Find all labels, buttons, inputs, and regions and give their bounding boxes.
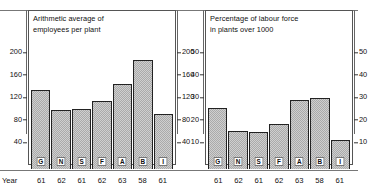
y-axis-tick-mark bbox=[200, 75, 204, 76]
bar-group[interactable]: N bbox=[228, 45, 247, 169]
y-axis-tick-mark bbox=[23, 120, 27, 121]
country-code-label: S bbox=[77, 157, 86, 166]
y-axis-tick-mark bbox=[200, 52, 204, 53]
y-axis-tick-mark bbox=[23, 75, 27, 76]
chart-panel-employees-per-plant: Arithmetic average of employees per plan… bbox=[28, 10, 176, 170]
country-code-label: S bbox=[254, 157, 263, 166]
country-code-label: F bbox=[97, 157, 106, 166]
chart-panel-labour-force-percentage: Percentage of labour force in plants ove… bbox=[205, 10, 353, 170]
y-axis-right: 1020304050 bbox=[355, 41, 372, 165]
bar-group[interactable]: B bbox=[133, 45, 152, 169]
year-tick-label: 61 bbox=[72, 174, 92, 188]
year-tick-label: 61 bbox=[153, 174, 173, 188]
y-axis-tick-mark bbox=[23, 97, 27, 98]
bar[interactable]: B bbox=[310, 98, 329, 169]
country-code-label: A bbox=[118, 157, 127, 166]
chart-title: Arithmetic average of employees per plan… bbox=[33, 14, 173, 35]
country-code-label: I bbox=[159, 157, 168, 166]
bar[interactable]: G bbox=[208, 108, 227, 169]
bar[interactable]: B bbox=[133, 60, 152, 169]
bar-group[interactable]: I bbox=[154, 45, 173, 169]
bar-group[interactable]: G bbox=[208, 45, 227, 169]
year-values: 61626162635861 bbox=[208, 174, 350, 188]
bar-group[interactable]: G bbox=[31, 45, 50, 169]
y-axis-tick-mark bbox=[354, 97, 358, 98]
y-axis-tick-mark bbox=[23, 52, 27, 53]
bar-series: GNSFABI bbox=[208, 45, 350, 169]
year-row-left: 61626162635861 bbox=[31, 174, 173, 188]
country-code-label: I bbox=[336, 157, 345, 166]
bar-group[interactable]: F bbox=[92, 45, 111, 169]
y-axis-tick-mark bbox=[200, 142, 204, 143]
country-code-label: G bbox=[36, 157, 45, 166]
y-axis-tick-mark bbox=[23, 142, 27, 143]
country-code-label: N bbox=[57, 157, 66, 166]
year-tick-label: 63 bbox=[289, 174, 309, 188]
year-tick-label: 61 bbox=[208, 174, 228, 188]
y-axis-tick-mark bbox=[200, 120, 204, 121]
bar[interactable]: A bbox=[113, 84, 132, 169]
y-axis-left: 4080120160200 bbox=[2, 41, 26, 165]
bar[interactable]: N bbox=[228, 131, 247, 169]
bar[interactable]: I bbox=[154, 114, 173, 169]
y-axis-spine-left bbox=[203, 10, 204, 134]
year-tick-label: 61 bbox=[330, 174, 350, 188]
bar[interactable]: A bbox=[290, 100, 309, 169]
country-code-label: A bbox=[295, 157, 304, 166]
year-tick-label: 61 bbox=[31, 174, 51, 188]
bar-group[interactable]: N bbox=[51, 45, 70, 169]
baseline-rule bbox=[0, 170, 358, 171]
chart-title: Percentage of labour force in plants ove… bbox=[210, 14, 350, 35]
bar-group[interactable]: B bbox=[310, 45, 329, 169]
year-tick-label: 62 bbox=[269, 174, 289, 188]
year-tick-label: 58 bbox=[132, 174, 152, 188]
bar[interactable]: F bbox=[269, 124, 288, 169]
bar[interactable]: N bbox=[51, 110, 70, 169]
bar[interactable]: I bbox=[331, 140, 350, 169]
y-axis-tick-mark bbox=[354, 75, 358, 76]
bar-group[interactable]: A bbox=[113, 45, 132, 169]
bar[interactable]: G bbox=[31, 90, 50, 169]
y-axis-tick-mark bbox=[200, 97, 204, 98]
year-tick-label: 62 bbox=[228, 174, 248, 188]
country-code-label: F bbox=[274, 157, 283, 166]
year-tick-label: 63 bbox=[112, 174, 132, 188]
year-values: 61626162635861 bbox=[31, 174, 173, 188]
y-axis-tick-mark bbox=[354, 52, 358, 53]
bar-group[interactable]: S bbox=[72, 45, 91, 169]
frame-rule-left bbox=[0, 10, 28, 11]
year-row-right: 61626162635861 bbox=[208, 174, 350, 188]
country-code-label: G bbox=[213, 157, 222, 166]
plot-area: GNSFABI bbox=[31, 45, 173, 169]
bar-group[interactable]: S bbox=[249, 45, 268, 169]
frame-rule-middle bbox=[176, 10, 205, 11]
y-axis-spine-left bbox=[26, 10, 27, 134]
y-axis-tick-mark bbox=[354, 142, 358, 143]
bar[interactable]: F bbox=[92, 101, 111, 169]
y-axis-left: 1020304050 bbox=[179, 41, 203, 165]
year-tick-label: 62 bbox=[92, 174, 112, 188]
country-code-label: B bbox=[138, 157, 147, 166]
bar-group[interactable]: I bbox=[331, 45, 350, 169]
bar[interactable]: S bbox=[249, 132, 268, 169]
bar-series: GNSFABI bbox=[31, 45, 173, 169]
year-tick-label: 58 bbox=[309, 174, 329, 188]
bar-group[interactable]: A bbox=[290, 45, 309, 169]
country-code-label: N bbox=[234, 157, 243, 166]
year-tick-label: 61 bbox=[249, 174, 269, 188]
year-tick-label: 62 bbox=[51, 174, 71, 188]
country-code-label: B bbox=[315, 157, 324, 166]
plot-area: GNSFABI bbox=[208, 45, 350, 169]
y-axis-tick-mark bbox=[354, 120, 358, 121]
year-axis-label: Year bbox=[2, 174, 17, 188]
bar[interactable]: S bbox=[72, 109, 91, 169]
bar-group[interactable]: F bbox=[269, 45, 288, 169]
